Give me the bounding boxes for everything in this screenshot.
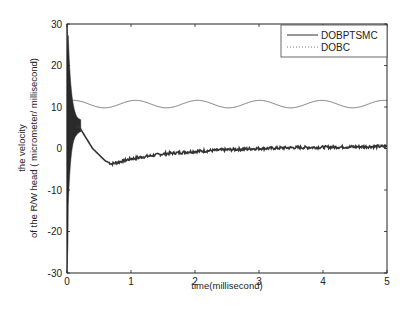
- x-tick-label: 1: [128, 276, 134, 287]
- series-dobc: [70, 100, 387, 107]
- y-tick-label: -20: [48, 226, 63, 237]
- y-tick-label: 20: [51, 60, 63, 71]
- y-axis-label: the velocity of the R/W head ( micromete…: [16, 58, 39, 238]
- plot-area: [67, 24, 387, 273]
- x-tick-label: 5: [384, 276, 390, 287]
- y-tick-label: 10: [51, 102, 63, 113]
- y-tick-label: 30: [51, 19, 63, 30]
- y-tick-label: -10: [48, 185, 63, 196]
- y-axis-label-line1: the velocity: [16, 124, 27, 172]
- y-axis-label-line2: of the R/W head ( micrometer/ millisecon…: [28, 58, 39, 238]
- x-tick-label: 0: [64, 276, 70, 287]
- x-axis-label: time(millisecond): [191, 280, 262, 291]
- legend: DOBPTSMC DOBC: [281, 25, 387, 57]
- legend-item-dobptsmc: DOBPTSMC: [321, 30, 378, 41]
- x-tick-label: 4: [320, 276, 326, 287]
- legend-item-dobc: DOBC: [321, 42, 350, 53]
- y-tick-label: 0: [56, 143, 62, 154]
- chart: 012345-30-20-100102030 time(millisecond)…: [0, 0, 407, 316]
- ticks: 012345-30-20-100102030: [48, 19, 391, 288]
- series-dobptsmc: [77, 126, 387, 165]
- y-tick-label: -30: [48, 268, 63, 279]
